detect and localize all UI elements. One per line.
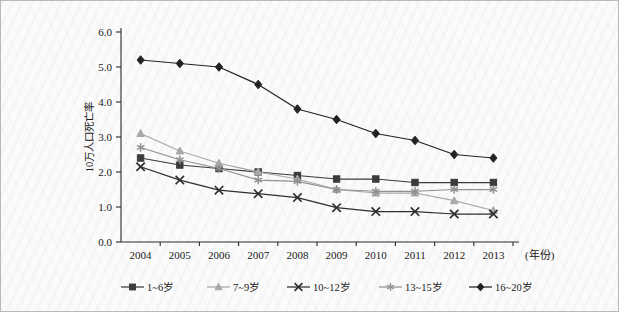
y-axis-title: 10万人口死亡率: [83, 102, 95, 173]
marker-square: [412, 179, 418, 185]
marker-diamond: [255, 80, 262, 89]
y-tick-label: 0.0: [98, 236, 112, 248]
x-tick-label: 2005: [169, 249, 192, 261]
marker-diamond: [490, 154, 497, 163]
line-chart: 0.01.02.03.04.05.06.02004200520062007200…: [1, 1, 619, 312]
legend-label: 13~15岁: [405, 281, 442, 293]
y-tick-label: 4.0: [98, 96, 112, 108]
x-axis-title: (年份): [525, 248, 555, 262]
marker-triangle: [137, 130, 145, 137]
series-1~6岁: [137, 155, 496, 186]
marker-square: [130, 284, 136, 290]
marker-triangle: [176, 147, 184, 154]
marker-diamond: [477, 283, 484, 291]
legend-item-10~12岁[interactable]: 10~12岁: [287, 281, 350, 293]
x-tick-label: 2004: [130, 249, 153, 261]
legend-item-13~15岁[interactable]: 13~15岁: [379, 281, 442, 293]
legend-label: 1~6岁: [147, 281, 173, 293]
marker-square: [137, 155, 143, 161]
marker-diamond: [411, 136, 418, 145]
series-layer: [136, 56, 497, 219]
marker-diamond: [372, 129, 379, 138]
x-tick-label: 2010: [365, 249, 388, 261]
x-tick-label: 2013: [482, 249, 505, 261]
x-tick-label: 2012: [443, 249, 465, 261]
y-tick-label: 6.0: [98, 26, 112, 38]
series-7~9岁: [137, 130, 497, 214]
x-tick-label: 2009: [326, 249, 349, 261]
y-tick-label: 3.0: [98, 131, 112, 143]
axis-layer: [116, 28, 519, 246]
series-line: [141, 158, 494, 183]
x-tick-label: 2011: [404, 249, 426, 261]
marker-square: [451, 179, 457, 185]
marker-square: [373, 176, 379, 182]
y-tick-label: 1.0: [98, 201, 112, 213]
legend-item-7~9岁[interactable]: 7~9岁: [207, 281, 259, 293]
marker-diamond: [176, 59, 183, 68]
marker-square: [333, 176, 339, 182]
series-line: [141, 134, 494, 211]
legend-label: 16~20岁: [495, 281, 532, 293]
series-line: [141, 60, 494, 158]
chart-frame: 0.01.02.03.04.05.06.02004200520062007200…: [0, 0, 619, 312]
marker-square: [490, 179, 496, 185]
y-tick-label: 2.0: [98, 166, 112, 178]
x-tick-label: 2007: [247, 249, 270, 261]
legend-item-1~6岁[interactable]: 1~6岁: [121, 281, 173, 293]
x-tick-label: 2008: [286, 249, 309, 261]
y-tick-label: 5.0: [98, 61, 112, 73]
legend-layer: 1~6岁7~9岁10~12岁13~15岁16~20岁: [121, 281, 532, 293]
series-16~20岁: [137, 56, 497, 163]
legend-item-16~20岁[interactable]: 16~20岁: [469, 281, 532, 293]
marker-diamond: [215, 63, 222, 72]
legend-label: 7~9岁: [233, 281, 259, 293]
x-tick-label: 2006: [208, 249, 231, 261]
marker-diamond: [294, 105, 301, 114]
marker-diamond: [137, 56, 144, 65]
marker-diamond: [451, 150, 458, 159]
marker-diamond: [333, 115, 340, 124]
legend-label: 10~12岁: [313, 281, 350, 293]
